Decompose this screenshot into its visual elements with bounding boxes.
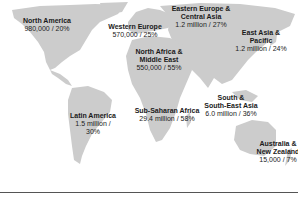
region-label-australia-new-zealand: Australia & New Zealand 15,000 / 7%: [254, 140, 298, 164]
region-name: Sub-Saharan Africa: [134, 107, 200, 115]
region-label-north-africa-middle-east: North Africa & Middle East 550,000 / 55%: [128, 48, 190, 72]
region-name: Western Europe: [104, 23, 166, 31]
region-stat: 29.4 million / 58%: [134, 115, 200, 123]
region-name-line-2: New Zealand: [254, 148, 298, 156]
region-name-line-1: East Asia &: [228, 29, 294, 37]
region-label-latin-america: Latin America 1.5 million / 30%: [68, 112, 118, 136]
region-stat: 980,000 / 20%: [14, 25, 80, 33]
central-america-land: [50, 70, 72, 86]
region-stat: 1.2 million / 27%: [168, 21, 234, 29]
region-stat: 6.0 million / 36%: [198, 110, 264, 118]
region-stat-line-1: 1.5 million /: [68, 120, 118, 128]
region-stat: 1.2 million / 24%: [228, 45, 294, 53]
region-label-sub-saharan-africa: Sub-Saharan Africa 29.4 million / 58%: [134, 107, 200, 123]
region-label-south-southeast-asia: South & South-East Asia 6.0 million / 36…: [198, 94, 264, 118]
region-name-line-1: Australia &: [254, 140, 298, 148]
region-label-east-asia-pacific: East Asia & Pacific 1.2 million / 24%: [228, 29, 294, 53]
region-name-line-1: North Africa &: [128, 48, 190, 56]
region-name: Latin America: [68, 112, 118, 120]
region-name-line-1: South &: [198, 94, 264, 102]
region-name: North America: [14, 17, 80, 25]
region-stat: 570,000 / 25%: [104, 31, 166, 39]
region-name-line-1: Eastern Europe &: [168, 5, 234, 13]
region-name-line-2: Central Asia: [168, 13, 234, 21]
region-name-line-2: Pacific: [228, 37, 294, 45]
region-label-western-europe: Western Europe 570,000 / 25%: [104, 23, 166, 39]
region-label-north-america: North America 980,000 / 20%: [14, 17, 80, 33]
region-name-line-2: Middle East: [128, 56, 190, 64]
region-label-eastern-europe-central-asia: Eastern Europe & Central Asia 1.2 millio…: [168, 5, 234, 29]
region-stat-line-2: 30%: [68, 128, 118, 136]
region-name-line-2: South-East Asia: [198, 102, 264, 110]
bottom-divider: [0, 192, 298, 193]
region-stat: 550,000 / 55%: [128, 64, 190, 72]
region-stat: 15,000 / 7%: [254, 156, 298, 164]
